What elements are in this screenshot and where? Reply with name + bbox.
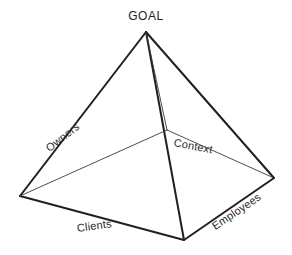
pyramid-drawing [0,0,292,255]
edge-base-left-to-base-back [20,130,167,196]
label-goal: GOAL [0,9,292,23]
pyramid-diagram: GOAL Owners Context Clients Employees [0,0,292,255]
edge-apex-to-base-back [146,32,167,130]
edge-apex-to-base-right [146,32,274,178]
edge-apex-to-base-left [20,32,146,196]
